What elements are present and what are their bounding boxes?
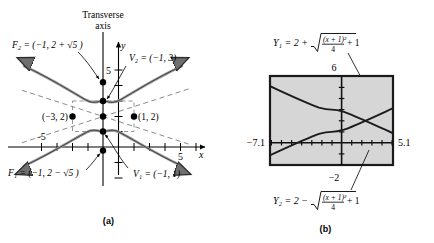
equation-y2: Y₂ = 2 − (x + 1)² 4 + 1 [273,192,360,213]
panel-b-svg: Y₁ = 2 + (x + 1)² 4 + 1 [217,0,434,243]
label-focus-upper: F₂ = (−1, 2 + √5 ) [11,40,83,51]
point-vertex-lower [100,128,106,134]
radicand-addend-y1: + 1 [347,38,360,48]
x-tick-label-5: 5 [178,151,183,162]
point-vertex-upper [100,98,106,104]
transverse-axis-title-line1: Transverse [82,10,123,20]
calculator-screen [270,76,393,165]
point-left [69,113,75,119]
label-focus-lower: F₁ = (−1, 2 − √5 ) [7,168,79,179]
label-vertex-lower: V₁ = (−1, 1) [133,169,180,180]
label-point-left: (−3, 2) [42,112,68,123]
transverse-axis-title-line2: axis [95,21,111,31]
point-focus-upper [100,79,106,85]
hyperbola-upper-right-arrow [176,58,188,63]
point-focus-lower [100,147,106,153]
leader-focus-lower [86,154,100,171]
radicand-denominator-y2: 4 [331,203,335,212]
point-right [131,113,137,119]
label-vertex-upper: V₂ = (−1, 3) [129,53,176,64]
x-axis-label: x [198,149,204,160]
equation-y1: Y₁ = 2 + (x + 1)² 4 + 1 [273,34,360,55]
equation-y2-lhs: Y₂ = 2 − [273,195,308,206]
radicand-addend-y2: + 1 [347,196,360,206]
window-xmin-label: −7.1 [247,137,265,148]
window-ymax-label: 6 [332,62,337,73]
radicand-denominator-y1: 4 [331,45,335,54]
panel-b-caption: (b) [217,224,434,234]
panel-a-svg: Transverse axis [0,0,217,243]
radicand-numerator-y1: (x + 1)² [323,35,347,44]
point-center [100,113,106,119]
window-ymin-label: −2 [329,172,340,183]
leader-focus-upper [78,52,99,79]
hyperbola-upper-left-arrow [18,58,30,63]
window-xmax-label: 5.1 [398,137,411,148]
panel-a-hyperbola-graph: Transverse axis [0,0,217,243]
equation-y1-lhs: Y₁ = 2 + [273,37,308,48]
radicand-numerator-y2: (x + 1)² [323,193,347,202]
y-axis-label: y [120,40,126,51]
figure-container: Transverse axis [0,0,434,243]
y-tick-label-5: 5 [106,65,111,76]
panel-b-calculator-view: Y₁ = 2 + (x + 1)² 4 + 1 [217,0,434,243]
panel-a-caption: (a) [0,216,217,226]
label-point-right: (1, 2) [138,112,159,123]
